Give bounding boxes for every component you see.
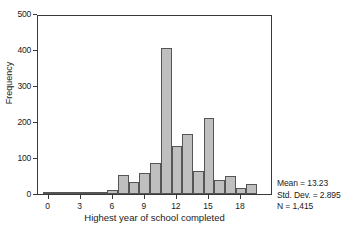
- x-tick-mark: [208, 195, 209, 199]
- bar-series: [38, 16, 271, 194]
- histogram-bar: [172, 146, 183, 194]
- x-tick-mark: [176, 195, 177, 199]
- histogram-bar: [65, 192, 76, 194]
- histogram-bar: [107, 190, 118, 194]
- y-axis: Frequency 0100200300400500: [0, 0, 37, 229]
- histogram-bar: [54, 192, 65, 194]
- x-tick-label: 12: [164, 201, 188, 211]
- y-tick-label: 300: [17, 81, 31, 92]
- plot-area: [37, 15, 272, 195]
- x-tick-mark: [144, 195, 145, 199]
- x-tick-label: 9: [132, 201, 156, 211]
- histogram-bar: [214, 180, 225, 194]
- histogram-bar: [97, 192, 108, 194]
- histogram-bar: [139, 173, 150, 194]
- y-tick-label: 400: [17, 45, 31, 56]
- statistics-annotation: Mean = 13.23 Std. Dev. = 2.895 N = 1,415: [277, 178, 341, 213]
- x-tick-label: 0: [36, 201, 60, 211]
- stat-std-dev: Std. Dev. = 2.895: [277, 190, 341, 202]
- y-axis-title: Frequency: [4, 38, 14, 128]
- histogram-bar: [204, 118, 215, 194]
- y-tick-label: 100: [17, 153, 31, 164]
- histogram-figure: Frequency 0100200300400500 0369121518 Hi…: [0, 0, 351, 229]
- x-tick-mark: [112, 195, 113, 199]
- stat-n: N = 1,415: [277, 201, 341, 213]
- histogram-bar: [225, 176, 236, 194]
- x-axis-title: Highest year of school completed: [37, 212, 272, 223]
- histogram-bar: [129, 182, 140, 194]
- x-tick-label: 3: [68, 201, 92, 211]
- histogram-bar: [182, 134, 193, 194]
- y-tick-label: 0: [26, 189, 31, 200]
- x-tick-label: 18: [228, 201, 252, 211]
- x-tick-mark: [48, 195, 49, 199]
- y-tick-label: 200: [17, 117, 31, 128]
- x-tick-mark: [240, 195, 241, 199]
- histogram-bar: [43, 192, 54, 194]
- stat-mean: Mean = 13.23: [277, 178, 341, 190]
- x-tick-mark: [80, 195, 81, 199]
- y-tick-label: 500: [17, 9, 31, 20]
- histogram-bar: [75, 192, 86, 194]
- histogram-bar: [118, 175, 129, 194]
- histogram-bar: [246, 184, 257, 194]
- histogram-bar: [161, 48, 172, 194]
- histogram-bar: [193, 171, 204, 194]
- histogram-bar: [236, 188, 247, 194]
- x-tick-label: 6: [100, 201, 124, 211]
- histogram-bar: [86, 192, 97, 194]
- histogram-bar: [150, 163, 161, 194]
- x-tick-label: 15: [196, 201, 220, 211]
